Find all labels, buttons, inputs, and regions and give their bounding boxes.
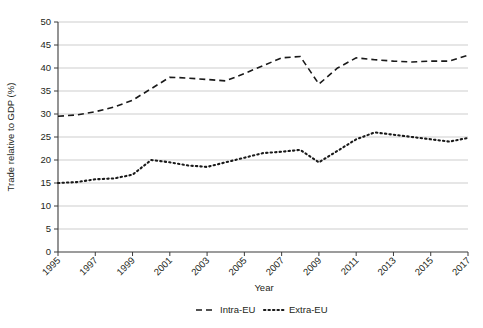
data-series-group xyxy=(58,55,468,183)
x-tick-label: 2013 xyxy=(375,255,398,278)
trade-to-gdp-line-chart: 05101520253035404550 1995199719992001200… xyxy=(0,0,483,328)
x-tick-label: 2007 xyxy=(263,255,286,278)
x-tick-label: 1995 xyxy=(40,255,63,278)
y-tick-label: 0 xyxy=(46,246,51,257)
x-axis-title: Year xyxy=(254,282,273,293)
x-tick-label: 2001 xyxy=(152,255,175,278)
y-tick-label: 10 xyxy=(40,200,51,211)
x-tick-label: 2005 xyxy=(226,255,249,278)
x-tick-label: 1997 xyxy=(77,255,100,278)
y-tick-marks-group xyxy=(54,22,58,252)
y-tick-label: 20 xyxy=(40,154,51,165)
y-tick-label: 5 xyxy=(46,223,51,234)
chart-legend: Intra-EU Extra-EU xyxy=(196,304,328,315)
x-tick-label: 2003 xyxy=(189,255,212,278)
y-tick-label: 15 xyxy=(40,177,51,188)
y-tick-label: 30 xyxy=(40,108,51,119)
y-tick-label: 45 xyxy=(40,39,51,50)
x-tick-label: 2015 xyxy=(412,255,435,278)
series-line-extra-eu xyxy=(58,132,468,183)
legend-label-intra-eu: Intra-EU xyxy=(220,304,256,315)
y-axis-title: Trade relative to GDP (%) xyxy=(5,83,16,192)
x-axis-tick-labels: 1995199719992001200320052007200920112013… xyxy=(40,255,473,278)
y-tick-label: 50 xyxy=(40,16,51,27)
x-tick-label: 2011 xyxy=(338,255,360,277)
y-tick-label: 40 xyxy=(40,62,51,73)
y-axis-tick-labels: 05101520253035404550 xyxy=(40,16,51,257)
series-line-intra-eu xyxy=(58,55,468,116)
legend-label-extra-eu: Extra-EU xyxy=(289,304,328,315)
y-tick-label: 25 xyxy=(40,131,51,142)
y-tick-label: 35 xyxy=(40,85,51,96)
x-tick-label: 2017 xyxy=(450,255,473,278)
x-tick-marks-group xyxy=(58,252,468,256)
x-tick-label: 1999 xyxy=(114,255,137,278)
gridlines-group xyxy=(58,22,468,229)
x-tick-label: 2009 xyxy=(301,255,324,278)
chart-figure: 05101520253035404550 1995199719992001200… xyxy=(0,0,483,328)
